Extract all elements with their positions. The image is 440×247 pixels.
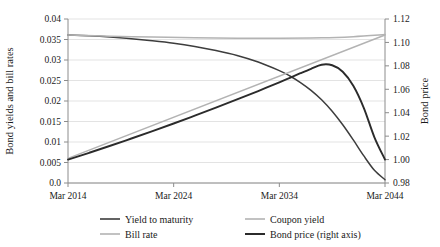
y-tick-label: 0.0 [49,178,61,188]
y-tick-label: 0.03 [44,55,61,65]
y-axis-title: Bond yields and bill rates [4,47,15,154]
legend-label-bill-rate: Bill rate [125,229,158,240]
legend-item-bill-rate: Bill rate [100,229,158,240]
y2-tick-label: 1.00 [393,155,410,165]
gridlines [68,19,385,183]
chart-figure: 0.00.0050.010.0150.020.0250.030.0350.04 … [0,0,440,247]
x-axis-tick-labels: Mar 2014Mar 2024Mar 2034Mar 2044 [49,191,403,201]
x-tick-label: Mar 2044 [366,191,403,201]
series-line-yield-to-maturity [68,35,385,180]
y-tick-label: 0.015 [40,117,62,127]
legend-item-coupon-yield: Coupon yield [245,214,324,225]
y2-axis-tick-labels: 0.981.001.021.041.061.081.101.12 [393,14,410,188]
bond-yields-chart: 0.00.0050.010.0150.020.0250.030.0350.04 … [0,0,440,247]
x-tick-label: Mar 2024 [155,191,192,201]
legend-label-coupon-yield: Coupon yield [270,214,324,225]
legend-label-yield-to-maturity: Yield to maturity [125,214,193,225]
y2-tick-label: 1.06 [393,85,410,95]
y-tick-label: 0.035 [40,35,62,45]
series-line-bond-price-right-axis [68,64,385,159]
y-tick-label: 0.02 [44,96,61,106]
y-tick-label: 0.025 [40,76,62,86]
y2-tick-label: 1.08 [393,61,410,71]
y2-axis-title: Bond price [419,77,430,124]
legend-item-yield-to-maturity: Yield to maturity [100,214,193,225]
y2-tick-label: 0.98 [393,178,410,188]
x-tick-label: Mar 2034 [261,191,298,201]
y-tick-label: 0.04 [44,14,61,24]
legend-item-bond-price-right-axis: Bond price (right axis) [245,229,361,241]
data-series-group [68,35,385,180]
y-axis-tick-labels: 0.00.0050.010.0150.020.0250.030.0350.04 [40,14,62,188]
legend-label-bond-price-right-axis: Bond price (right axis) [270,229,361,241]
y2-tick-label: 1.10 [393,38,410,48]
y2-tick-label: 1.12 [393,14,410,24]
x-tick-label: Mar 2014 [49,191,86,201]
chart-legend: Yield to maturityCoupon yieldBill rateBo… [100,214,361,241]
y2-tick-label: 1.04 [393,108,410,118]
y-tick-label: 0.005 [40,158,62,168]
y2-tick-label: 1.02 [393,132,410,142]
y-tick-label: 0.01 [44,137,61,147]
